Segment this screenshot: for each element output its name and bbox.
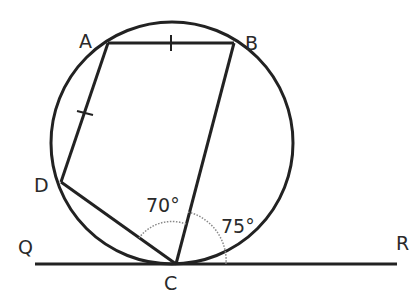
circle xyxy=(51,22,293,264)
angle-label-bcr: 75° xyxy=(221,215,255,237)
label-a: A xyxy=(79,30,92,52)
label-q: Q xyxy=(18,236,33,258)
geometry-diagram: A B D C Q R 70° 75° xyxy=(0,0,420,295)
label-c: C xyxy=(164,272,177,294)
label-d: D xyxy=(34,174,49,196)
angle-label-dcb: 70° xyxy=(146,194,180,216)
label-r: R xyxy=(396,232,409,254)
label-b: B xyxy=(245,32,258,54)
angle-arc-dcb xyxy=(139,221,186,238)
